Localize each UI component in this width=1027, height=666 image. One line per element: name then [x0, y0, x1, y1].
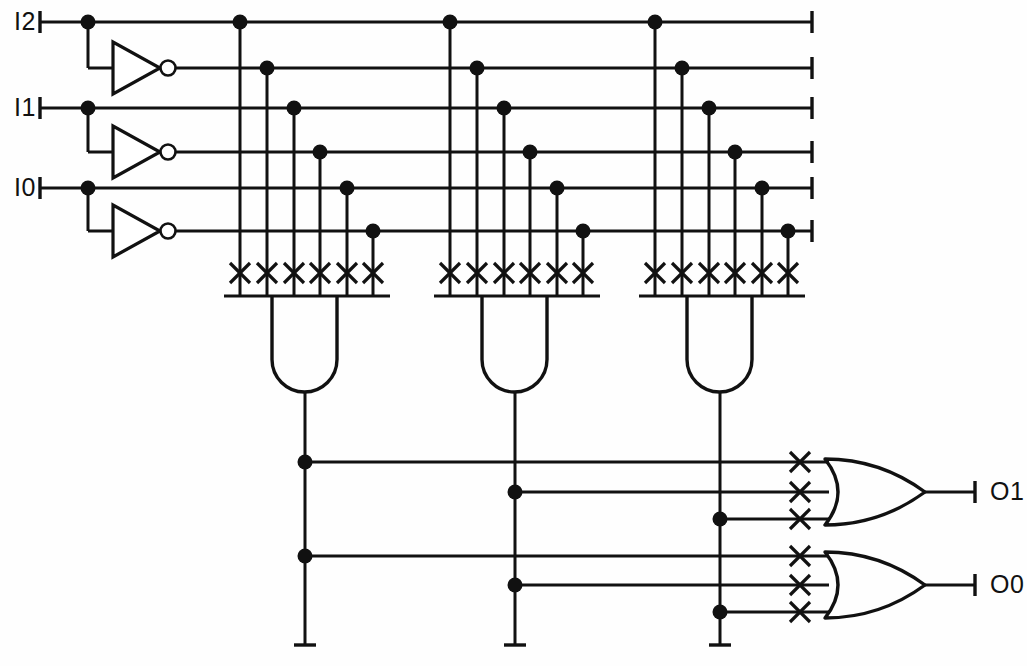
product-term-1-tap-dot-notI2: [470, 61, 485, 76]
input-tap-dot-i2: [81, 15, 96, 30]
inverter-inv1[interactable]: [113, 126, 176, 178]
or-gate-o1-tap-dot-1: [508, 485, 523, 500]
product-term-1-tap-dot-notI1: [523, 145, 538, 160]
or-gate-o0-or-gate-icon: [825, 552, 925, 618]
diagram-canvas: I2I1I0O1O0: [0, 0, 1027, 666]
product-term-0-and-gate-icon: [272, 296, 337, 392]
inverter-triangle-icon: [113, 126, 160, 178]
or-gate-o1-tap-dot-2: [713, 512, 728, 527]
product-term-2-tap-dot-I0: [755, 181, 770, 196]
inverter-triangle-icon: [113, 42, 160, 94]
product-term-1-tap-dot-I0: [550, 181, 565, 196]
product-term-2-tap-dot-I1: [702, 101, 717, 116]
inverter-inv0[interactable]: [113, 205, 176, 257]
and-plane-layer: [224, 22, 805, 645]
product-term-0-tap-dot-notI1: [313, 145, 328, 160]
product-term-2-tap-dot-notI1: [728, 145, 743, 160]
inverter-inv2[interactable]: [113, 42, 176, 94]
product-term-2-and-gate-icon: [687, 296, 752, 392]
or-gate-o1[interactable]: [305, 452, 975, 529]
product-term-1-and-gate-icon: [482, 296, 547, 392]
product-term-1-tap-dot-I1: [497, 101, 512, 116]
product-term-0-tap-dot-I2: [233, 15, 248, 30]
or-gate-o0-tap-dot-2: [713, 605, 728, 620]
inverter-triangle-icon: [113, 205, 160, 257]
product-term-0-tap-dot-I0: [340, 181, 355, 196]
input-tap-dot-i1: [81, 101, 96, 116]
pla-schematic: I2I1I0O1O0: [0, 0, 1027, 666]
product-term-2[interactable]: [639, 22, 805, 645]
input-tap-dot-i0: [81, 181, 96, 196]
or-gate-o0[interactable]: [305, 546, 975, 622]
product-term-2-tap-dot-notI2: [675, 61, 690, 76]
product-term-0-tap-dot-notI0: [366, 224, 381, 239]
inverters-layer: [113, 42, 176, 257]
input-label-i1: I1: [14, 93, 36, 121]
inverter-bubble-icon: [161, 224, 176, 239]
input-rails-layer: [40, 11, 812, 242]
product-term-0-tap-dot-notI2: [260, 61, 275, 76]
product-term-1-tap-dot-notI0: [576, 224, 591, 239]
product-term-2-tap-dot-notI0: [781, 224, 796, 239]
or-gate-o0-tap-dot-1: [508, 578, 523, 593]
inverter-bubble-icon: [161, 145, 176, 160]
product-term-1[interactable]: [434, 22, 600, 645]
labels-layer: I2I1I0O1O0: [14, 7, 1024, 598]
product-term-0-tap-dot-I1: [287, 101, 302, 116]
or-gate-o1-tap-dot-0: [298, 455, 313, 470]
product-term-1-tap-dot-I2: [443, 15, 458, 30]
product-term-2-tap-dot-I2: [648, 15, 663, 30]
output-label-o1: O1: [990, 477, 1024, 505]
input-label-i2: I2: [14, 7, 36, 35]
or-plane-layer: [305, 452, 975, 622]
inverter-bubble-icon: [161, 61, 176, 76]
or-gate-o0-tap-dot-0: [298, 549, 313, 564]
input-label-i0: I0: [14, 173, 36, 201]
or-gate-o1-or-gate-icon: [825, 459, 925, 525]
output-label-o0: O0: [990, 570, 1024, 598]
